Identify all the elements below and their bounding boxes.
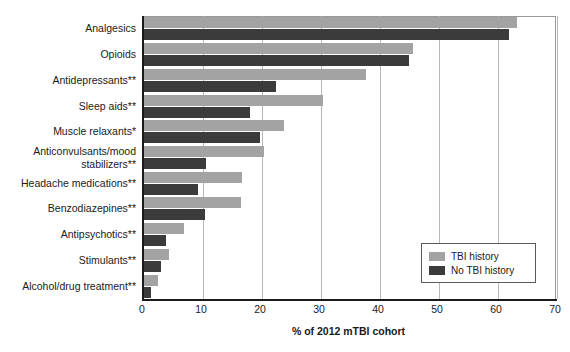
- bar-no-tbi-history: [144, 29, 509, 40]
- bar-tbi-history: [144, 223, 184, 234]
- legend-label-tbi-history: TBI history: [451, 251, 499, 262]
- legend-label-no-tbi-history: No TBI history: [451, 265, 514, 276]
- bar-no-tbi-history: [144, 55, 409, 66]
- bar-no-tbi-history: [144, 261, 161, 272]
- bar-tbi-history: [144, 172, 242, 183]
- bar-tbi-history: [144, 17, 517, 28]
- bar-tbi-history: [144, 275, 158, 286]
- category-label: Antidepressants**: [0, 74, 136, 87]
- category-label: Analgesics: [0, 22, 136, 35]
- bar-tbi-history: [144, 95, 323, 106]
- bar-tbi-history: [144, 69, 366, 80]
- x-tick-label: 50: [417, 303, 457, 315]
- category-label: Stimulants**: [0, 254, 136, 267]
- x-tick-label: 10: [181, 303, 221, 315]
- bar-tbi-history: [144, 197, 241, 208]
- category-label: Opioids: [0, 48, 136, 61]
- category-label: Muscle relaxants*: [0, 125, 136, 138]
- category-label: Antipsychotics**: [0, 228, 136, 241]
- category-label: Benzodiazepines**: [0, 202, 136, 215]
- bar-chart: AnalgesicsOpioidsAntidepressants**Sleep …: [0, 0, 570, 352]
- bar-no-tbi-history: [144, 287, 151, 298]
- x-axis-title: % of 2012 mTBI cohort: [142, 325, 555, 337]
- legend-swatch-tbi-history: [429, 252, 445, 261]
- bar-no-tbi-history: [144, 209, 205, 220]
- bar-no-tbi-history: [144, 184, 198, 195]
- bar-tbi-history: [144, 249, 169, 260]
- x-tick-label: 0: [122, 303, 162, 315]
- x-tick-label: 70: [535, 303, 570, 315]
- chart-legend: TBI history No TBI history: [421, 243, 536, 283]
- legend-item-tbi-history: TBI history: [429, 249, 528, 263]
- gridline: [557, 16, 558, 299]
- category-label: Sleep aids**: [0, 100, 136, 113]
- legend-swatch-no-tbi-history: [429, 266, 445, 275]
- bar-no-tbi-history: [144, 132, 260, 143]
- bar-tbi-history: [144, 43, 413, 54]
- legend-item-no-tbi-history: No TBI history: [429, 263, 528, 277]
- category-label: Alcohol/drug treatment**: [0, 280, 136, 293]
- bar-no-tbi-history: [144, 235, 166, 246]
- x-tick-label: 40: [358, 303, 398, 315]
- x-tick-label: 20: [240, 303, 280, 315]
- x-tick-label: 30: [299, 303, 339, 315]
- category-label: Anticonvulsants/mood stabilizers**: [0, 145, 136, 170]
- bar-tbi-history: [144, 146, 264, 157]
- category-label: Headache medications**: [0, 177, 136, 190]
- bar-no-tbi-history: [144, 158, 206, 169]
- x-tick-label: 60: [476, 303, 516, 315]
- bar-no-tbi-history: [144, 81, 276, 92]
- bar-tbi-history: [144, 120, 284, 131]
- bar-no-tbi-history: [144, 107, 250, 118]
